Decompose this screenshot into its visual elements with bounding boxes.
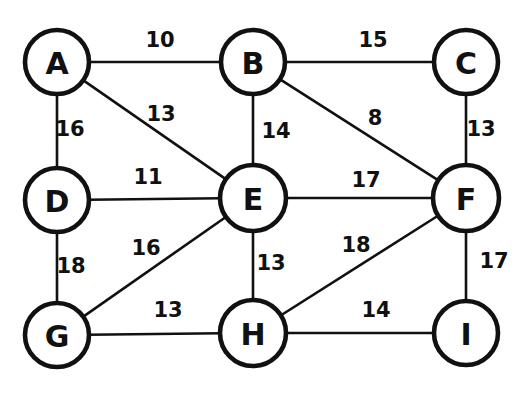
- edge-weight-h-i: 14: [361, 298, 390, 322]
- graph-node-b[interactable]: B: [221, 30, 285, 94]
- node-label-h: H: [240, 317, 265, 352]
- edge-weight-f-i: 17: [479, 249, 508, 273]
- edge-weight-d-e: 11: [133, 165, 162, 189]
- graph-node-c[interactable]: C: [434, 30, 498, 94]
- graph-edge-g-h: [88, 333, 221, 334]
- edge-weight-g-h: 13: [153, 298, 182, 322]
- graph-node-i[interactable]: I: [434, 301, 498, 365]
- node-label-b: B: [242, 46, 265, 81]
- graph-node-f[interactable]: F: [433, 165, 499, 231]
- graph-edge-b-f: [279, 79, 439, 181]
- edge-weight-a-b: 10: [145, 28, 174, 52]
- node-label-d: D: [45, 184, 70, 219]
- edge-weight-a-d: 16: [55, 117, 84, 141]
- edge-weight-e-f: 17: [351, 168, 380, 192]
- graph-node-e[interactable]: E: [220, 165, 286, 231]
- graph-edge-f-h: [280, 215, 439, 316]
- graph-node-g[interactable]: G: [25, 303, 89, 367]
- graph-node-a[interactable]: A: [25, 30, 89, 94]
- graph-diagram: 1015161314813111718161318171314 ABCDEFGH…: [0, 0, 522, 395]
- node-label-c: C: [455, 46, 477, 81]
- edge-weight-b-e: 14: [261, 119, 290, 143]
- node-label-e: E: [243, 182, 264, 217]
- graph-node-d[interactable]: D: [25, 168, 89, 232]
- graph-canvas: 1015161314813111718161318171314 ABCDEFGH…: [0, 0, 522, 395]
- edge-weight-d-g: 18: [56, 254, 85, 278]
- edge-weight-f-h: 18: [341, 233, 370, 257]
- node-label-i: I: [460, 317, 471, 352]
- edge-weight-b-f: 8: [368, 106, 383, 130]
- edge-weight-a-e: 13: [146, 102, 175, 126]
- edge-weight-e-h: 13: [256, 251, 285, 275]
- node-label-a: A: [45, 46, 69, 81]
- graph-edge-d-e: [88, 198, 221, 199]
- graph-node-h[interactable]: H: [220, 300, 286, 366]
- node-label-f: F: [456, 182, 477, 217]
- edge-weight-b-c: 15: [358, 28, 387, 52]
- node-label-g: G: [45, 319, 70, 354]
- edge-weight-e-g: 16: [131, 236, 160, 260]
- edge-weight-c-f: 13: [466, 117, 495, 141]
